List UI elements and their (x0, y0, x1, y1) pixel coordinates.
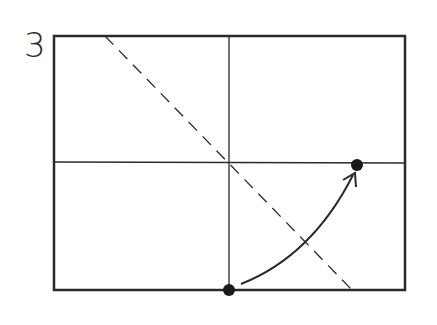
start-point-dot (223, 284, 235, 296)
fold-diagram (0, 0, 437, 325)
end-point-dot (351, 159, 363, 171)
fold-arrow (241, 175, 353, 284)
